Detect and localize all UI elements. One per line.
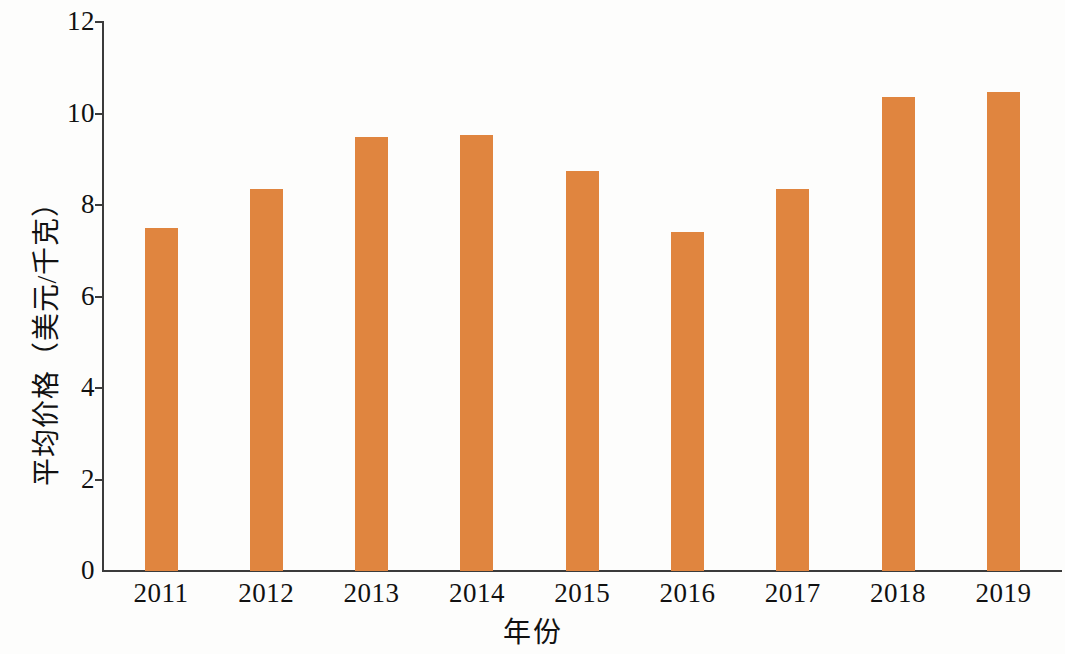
bar <box>250 189 283 571</box>
x-axis-tick-label: 2012 <box>211 578 321 608</box>
y-axis-tick <box>95 113 103 115</box>
x-axis-tick-label: 2014 <box>422 578 532 608</box>
y-axis-tick <box>95 296 103 298</box>
x-axis-tick-label: 2018 <box>843 578 953 608</box>
bar-chart-figure: 024681012 201120122013201420152016201720… <box>0 0 1065 654</box>
y-axis-tick-label: 10 <box>35 100 95 127</box>
y-axis-title: 平均价格（美元/千克） <box>32 147 62 527</box>
x-axis-tick-label: 2017 <box>738 578 848 608</box>
y-axis-tick <box>95 204 103 206</box>
x-axis-tick-label: 2016 <box>633 578 743 608</box>
bar <box>882 97 915 571</box>
bar <box>671 232 704 571</box>
bar <box>460 135 493 571</box>
y-axis-tick <box>95 387 103 389</box>
y-axis-tick <box>95 479 103 481</box>
bar <box>355 137 388 571</box>
y-axis-tick <box>95 21 103 23</box>
bar <box>987 92 1020 571</box>
x-axis-tick-label: 2013 <box>317 578 427 608</box>
y-axis-tick-label: 12 <box>35 8 95 35</box>
bar <box>145 228 178 571</box>
x-axis-tick-label: 2011 <box>106 578 216 608</box>
x-axis-tick-label: 2019 <box>948 578 1058 608</box>
y-axis-tick-label: 0 <box>35 557 95 584</box>
x-axis-tick-label: 2015 <box>527 578 637 608</box>
x-axis-title: 年份 <box>0 616 1065 650</box>
bar <box>776 189 809 571</box>
bar <box>566 171 599 571</box>
